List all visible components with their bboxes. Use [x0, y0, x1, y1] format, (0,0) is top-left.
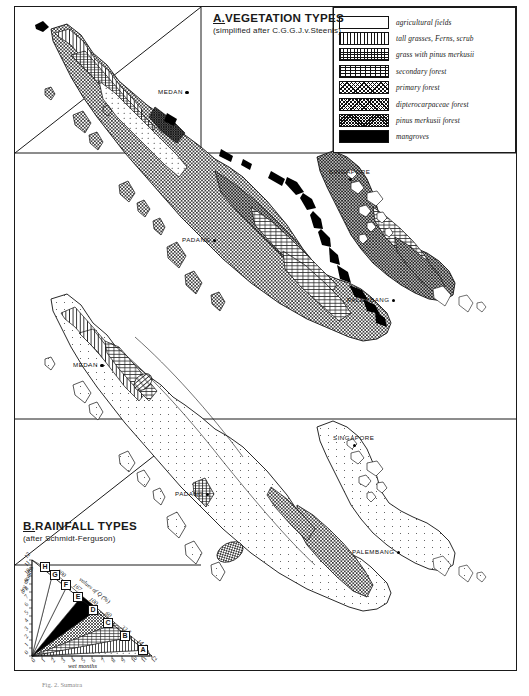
legend-label-1: tall grasses, Ferns, scrub: [396, 34, 474, 43]
city-dot: [213, 239, 216, 242]
city-label-padang-a: PADANG: [182, 236, 216, 243]
legend-label-4: primary forest: [396, 83, 440, 92]
city-dot: [185, 91, 188, 94]
legend-label-3: secondary forest: [396, 67, 446, 76]
legend-item-7: mangroves: [339, 129, 512, 145]
city-name: MEDAN: [158, 88, 183, 95]
legend-swatch-p-xhdense: [339, 114, 389, 127]
legend-label-2: grass with pinus merkusii: [396, 50, 474, 59]
legend-rows: agricultural fieldstall grasses, Ferns, …: [339, 14, 512, 145]
legend-item-5: dipterocarpaceae forest: [339, 96, 512, 112]
legend-item-3: secondary forest: [339, 63, 512, 79]
panel-b-heading: B.RAINFALL TYPES: [23, 519, 137, 532]
panel-b-title-text: RAINFALL TYPES: [35, 519, 137, 532]
city-label-singapore-a: SINGAPORE: [329, 168, 370, 182]
legend-swatch-p-vbrick: [339, 48, 389, 61]
legend-item-6: pinus merkusii forest: [339, 112, 512, 128]
bangka-belitung-a: [433, 286, 486, 312]
zone-letter-a: A: [138, 645, 148, 655]
zone-letter-h: H: [40, 562, 50, 572]
city-label-singapore-b: SINGAPORE: [333, 434, 374, 448]
zone-letter-f: F: [61, 580, 71, 590]
panel-b-subtitle: (after Schmidt-Ferguson): [23, 534, 137, 543]
city-name: SINGAPORE: [329, 168, 370, 175]
zone-letter-d: D: [88, 605, 98, 615]
city-label-palembang-a: PALEMBANG: [347, 296, 395, 303]
legend-label-6: pinus merkusii forest: [396, 116, 460, 125]
zone-letter-c: C: [103, 618, 113, 628]
city-label-medan-b: MEDAN: [73, 361, 104, 368]
city-dot: [353, 444, 356, 447]
legend-label-0: agricultural fields: [396, 18, 451, 27]
city-name: PALEMBANG: [347, 296, 390, 303]
panel-b-title: B.RAINFALL TYPES (after Schmidt-Ferguson…: [23, 519, 137, 543]
city-dot: [206, 493, 209, 496]
panel-a-heading: A.VEGETATION TYPES: [213, 11, 344, 24]
legend-label-5: dipterocarpaceae forest: [396, 100, 469, 109]
rainfall-triangle-chart: dry months wet months values of Q (%) 01…: [20, 552, 180, 670]
legend-item-4: primary forest: [339, 80, 512, 96]
city-name: PALEMBANG: [352, 548, 395, 555]
bangka-belitung-b: [433, 556, 486, 582]
zone-letter-e: E: [73, 592, 83, 602]
legend-item-0: agricultural fields: [339, 14, 512, 30]
vegetation-legend: agricultural fieldstall grasses, Ferns, …: [333, 7, 516, 153]
panel-a-title-text: VEGETATION TYPES: [225, 11, 344, 24]
city-name: MEDAN: [73, 361, 98, 368]
city-dot: [349, 178, 352, 181]
city-dot: [397, 551, 400, 554]
panel-b-letter: B.: [23, 519, 35, 532]
legend-swatch-p-vlines: [339, 32, 389, 45]
legend-swatch-p-hbrick: [339, 65, 389, 78]
x-axis-title: wet months: [68, 662, 97, 669]
figure-caption: Fig. 2. Sumatra: [42, 681, 82, 688]
zone-letter-g: G: [50, 570, 60, 580]
panel-a-title: A.VEGETATION TYPES (simplified after C.G…: [213, 11, 344, 35]
city-name: SINGAPORE: [333, 434, 374, 441]
panel-a-subtitle: (simplified after C.G.G.J.v.Steenis): [213, 26, 344, 35]
city-label-padang-b: PADANG: [175, 490, 209, 497]
city-dot: [392, 299, 395, 302]
zone-letter-b: B: [120, 631, 130, 641]
legend-item-2: grass with pinus merkusii: [339, 47, 512, 63]
legend-label-7: mangroves: [396, 132, 429, 141]
legend-swatch-p-dots: [339, 16, 389, 29]
city-name: PADANG: [182, 236, 211, 243]
panel-a-letter: A.: [213, 11, 225, 24]
legend-swatch-p-xhatch: [339, 81, 389, 94]
city-dot: [100, 364, 103, 367]
legend-item-1: tall grasses, Ferns, scrub: [339, 30, 512, 46]
legend-swatch-p-solid: [339, 130, 389, 143]
city-label-palembang-b: PALEMBANG: [352, 548, 400, 555]
legend-swatch-p-xhdot: [339, 98, 389, 111]
figure-plate: agricultural fieldstall grasses, Ferns, …: [0, 0, 529, 696]
city-label-medan-a: MEDAN: [158, 88, 189, 95]
city-name: PADANG: [175, 490, 204, 497]
